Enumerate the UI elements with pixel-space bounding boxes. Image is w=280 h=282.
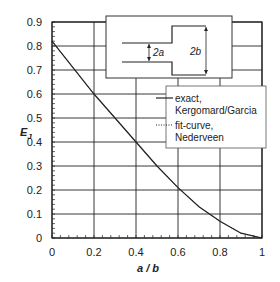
y-tick-label: 0.2 — [27, 184, 42, 196]
y-tick-label: 0.8 — [27, 40, 42, 52]
y-tick-label: 0.5 — [27, 112, 42, 124]
inset-label-2a: 2a — [152, 47, 165, 58]
x-axis-label: a / b — [137, 262, 159, 274]
legend-fit-line2: Nederveen — [175, 132, 224, 143]
x-tick-label: 0.4 — [128, 246, 143, 258]
x-tick-labels: 00.20.40.60.81 — [49, 246, 265, 258]
x-tick-label: 1 — [259, 246, 265, 258]
x-tick-label: 0.6 — [170, 246, 185, 258]
x-tick-label: 0.8 — [212, 246, 227, 258]
y-tick-labels: 00.10.20.30.40.50.60.70.80.9 — [27, 16, 42, 244]
x-tick-label: 0 — [49, 246, 55, 258]
legend-fit-line1: fit-curve, — [175, 120, 213, 131]
y-tick-label: 0.9 — [27, 16, 42, 28]
y-tick-label: 0.1 — [27, 208, 42, 220]
chart: 00.10.20.30.40.50.60.70.80.9 00.20.40.60… — [0, 0, 280, 282]
inset-label-2b: 2b — [189, 46, 202, 57]
inset-diagram: 2a 2b — [106, 16, 232, 78]
y-tick-label: 0.6 — [27, 88, 42, 100]
legend-exact-line1: exact, — [175, 93, 202, 104]
x-tick-label: 0.2 — [86, 246, 101, 258]
y-tick-label: 0.3 — [27, 160, 42, 172]
legend-exact-line2: Kergomard/Garcia — [175, 105, 257, 116]
y-tick-label: 0 — [36, 232, 42, 244]
y-tick-label: 0.7 — [27, 64, 42, 76]
legend: exact, Kergomard/Garcia fit-curve, Neder… — [156, 86, 266, 148]
